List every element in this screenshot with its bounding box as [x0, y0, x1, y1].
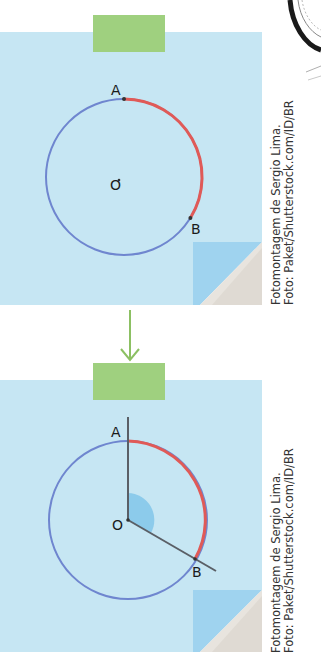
point-O-bottom: [126, 518, 130, 522]
credit-line-2: Foto: Paket/Shutterstock.com/ID/BR: [283, 353, 296, 653]
label-A-bottom: A: [111, 424, 121, 440]
point-B-bottom: [193, 557, 197, 561]
folded-corner-bottom: [193, 590, 262, 652]
photo-credit-bottom: Fotomontagem de Sergio Lima. Foto: Paket…: [270, 353, 310, 653]
credit-line-2: Foto: Paket/Shutterstock.com/ID/BR: [283, 5, 296, 305]
label-B-bottom: B: [192, 564, 202, 580]
label-O-bottom: O: [112, 517, 123, 533]
photo-credit-top: Fotomontagem de Sergio Lima. Foto: Paket…: [270, 5, 310, 305]
